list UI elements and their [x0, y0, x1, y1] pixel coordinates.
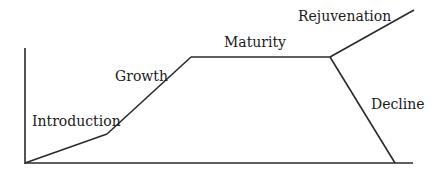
- life-cycle-diagram: Introduction Growth Maturity Rejuvenatio…: [0, 0, 439, 175]
- rejuvenation-label: Rejuvenation: [298, 8, 391, 24]
- growth-label: Growth: [115, 68, 168, 84]
- introduction-label: Introduction: [32, 113, 121, 129]
- maturity-label: Maturity: [224, 34, 286, 50]
- introduction-segment: [25, 134, 107, 163]
- decline-label: Decline: [371, 96, 425, 112]
